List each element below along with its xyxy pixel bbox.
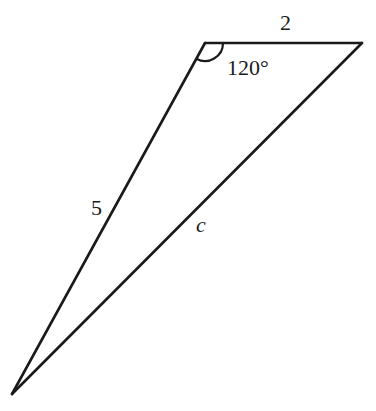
side-ab-label: 2 xyxy=(280,10,291,35)
side-ac xyxy=(12,43,205,394)
side-bc xyxy=(12,43,362,394)
triangle-diagram: 2 120° 5 c xyxy=(0,0,376,411)
angle-a-label: 120° xyxy=(227,55,269,80)
triangle-figure: 2 120° 5 c xyxy=(0,0,376,411)
side-ac-label: 5 xyxy=(91,195,102,220)
side-bc-label: c xyxy=(196,212,206,237)
